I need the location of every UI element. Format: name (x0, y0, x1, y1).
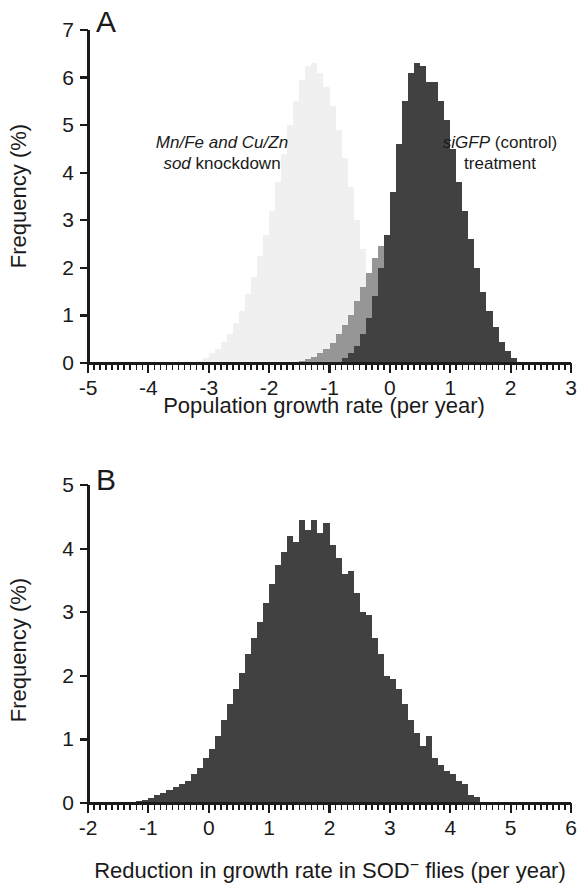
histogram-bar (378, 654, 384, 803)
histogram-bar (209, 749, 215, 803)
y-tick-label: 3 (62, 208, 74, 231)
histogram-bar (221, 720, 227, 803)
histogram-bar (215, 349, 221, 363)
histogram-bar (474, 268, 480, 363)
y-tick-label: 7 (62, 18, 74, 41)
histogram-bar (390, 192, 396, 363)
annotation-knockdown-gene: sod (163, 154, 191, 173)
histogram-bar (245, 294, 251, 363)
histogram-bar (462, 211, 468, 363)
x-tick-label: 2 (505, 376, 517, 399)
histogram-bar (456, 781, 462, 803)
panel-b-y-axis-title: Frequency (%) (6, 578, 31, 722)
histogram-bar (281, 552, 287, 803)
histogram-bar (330, 545, 336, 803)
histogram-bar (456, 182, 462, 363)
histogram-bar (287, 536, 293, 803)
histogram-bar (396, 689, 402, 803)
histogram-bar (366, 615, 372, 803)
annotation-control-line2: treatment (464, 154, 536, 173)
x-tick-label: 0 (203, 816, 215, 839)
y-tick-label: 3 (62, 600, 74, 623)
panel-b-letter: B (96, 463, 116, 496)
histogram-bar (426, 736, 432, 803)
histogram-bar (251, 277, 257, 363)
panel-a-bars (197, 63, 517, 363)
histogram-bar (305, 530, 311, 803)
histogram-bar (420, 66, 426, 363)
histogram-bar (275, 182, 281, 363)
panel-b: -2-10123456012345 B Reduction in growth … (0, 450, 583, 887)
annotation-knockdown-line1: Mn/Fe and Cu/Zn (156, 133, 288, 152)
histogram-bar (245, 654, 251, 803)
x-tick-label: 6 (565, 816, 577, 839)
series-reduction-in-growth-rate (136, 520, 480, 803)
histogram-bar (414, 63, 420, 363)
histogram-bar (444, 771, 450, 803)
histogram-bar (251, 638, 257, 803)
histogram-bar (233, 323, 239, 363)
y-tick-label: 1 (62, 727, 74, 750)
histogram-bar (317, 73, 323, 363)
histogram-bar (299, 520, 305, 803)
histogram-bar (173, 787, 179, 803)
histogram-bar (323, 87, 329, 363)
histogram-bar (323, 349, 329, 363)
panel-b-x-axis-title-superscript: − (410, 856, 419, 873)
histogram-bar (299, 80, 305, 363)
x-tick-label: 4 (444, 816, 456, 839)
x-tick-label: -2 (79, 816, 98, 839)
histogram-bar (493, 327, 499, 363)
y-tick-label: 4 (62, 537, 74, 560)
histogram-bar (305, 66, 311, 363)
y-tick-label: 2 (62, 664, 74, 687)
histogram-bar (432, 82, 438, 363)
annotation-knockdown-word: knockdown (191, 154, 281, 173)
histogram-bar (336, 558, 342, 803)
histogram-bar (372, 638, 378, 803)
histogram-bar (402, 101, 408, 363)
histogram-bar (269, 211, 275, 363)
histogram-bar (372, 296, 378, 363)
histogram-bar (263, 603, 269, 803)
histogram-bar (366, 318, 372, 363)
x-tick-label: 5 (505, 816, 517, 839)
histogram-bar (287, 125, 293, 363)
histogram-bar (390, 679, 396, 803)
histogram-bar (293, 101, 299, 363)
histogram-bar (239, 311, 245, 363)
histogram-bar (354, 346, 360, 363)
panel-a-y-axis-title: Frequency (%) (6, 124, 31, 268)
histogram-bar (342, 325, 348, 363)
panel-b-plot: -2-10123456012345 B Reduction in growth … (0, 450, 583, 887)
histogram-bar (323, 523, 329, 803)
histogram-bar (348, 571, 354, 803)
annotation-control-paren: (control) (490, 133, 557, 152)
histogram-bar (408, 73, 414, 363)
histogram-bar (239, 673, 245, 803)
annotation-knockdown-line2: sod knockdown (163, 154, 280, 173)
histogram-bar (342, 574, 348, 803)
y-tick-label: 1 (62, 303, 74, 326)
histogram-bar (317, 533, 323, 803)
histogram-bar (275, 565, 281, 804)
x-tick-label: 3 (384, 816, 396, 839)
histogram-bar (450, 774, 456, 803)
histogram-bar (215, 736, 221, 803)
histogram-bar (166, 790, 172, 803)
panel-b-x-axis-title-part1: Reduction in growth rate in SOD (94, 858, 410, 883)
histogram-bar (227, 334, 233, 363)
histogram-bar (197, 768, 203, 803)
histogram-bar (438, 765, 444, 803)
y-tick-label: 0 (62, 791, 74, 814)
histogram-bar (396, 144, 402, 363)
panel-a-x-axis-title: Population growth rate (per year) (163, 393, 485, 418)
histogram-bar (185, 781, 191, 803)
x-tick-label: 2 (324, 816, 336, 839)
y-tick-label: 4 (62, 161, 74, 184)
histogram-bar (505, 351, 511, 363)
histogram-bar (257, 622, 263, 803)
histogram-bar (330, 343, 336, 363)
histogram-bar (426, 82, 432, 363)
panel-a-letter: A (96, 5, 116, 38)
